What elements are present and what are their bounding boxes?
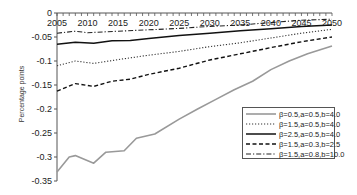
legend-item: β=1.5,a=0.5,b=4.0 <box>246 119 332 129</box>
x-tick-label: 2010 <box>78 18 98 28</box>
y-tick-label: 0 <box>47 8 52 18</box>
legend: β=0.5,a=0.5,b=4.0β=1.5,a=0.5,b=4.0β=2.5,… <box>242 107 335 159</box>
series-line-4 <box>57 37 332 91</box>
legend-item: β=0.5,a=0.5,b=4.0 <box>246 109 332 119</box>
legend-label: β=2.5,a=0.5,b=4.0 <box>279 130 340 139</box>
legend-swatch-icon <box>246 150 276 158</box>
legend-swatch-icon <box>246 130 276 138</box>
x-tick-label: 2020 <box>139 18 159 28</box>
legend-label: β=0.5,a=0.5,b=4.0 <box>279 110 340 119</box>
legend-item: β=1.5,a=0.3,b=2.5 <box>246 139 332 149</box>
legend-swatch-icon <box>246 110 276 118</box>
y-tick-label: -0.15 <box>31 80 52 90</box>
x-tick-label: 2025 <box>169 18 189 28</box>
legend-label: β=1.5,a=0.3,b=2.5 <box>279 140 340 149</box>
y-tick-label: -0.05 <box>31 32 52 42</box>
x-tick-label: 2015 <box>108 18 128 28</box>
x-axis: 2005201020152020202520302035204020452050 <box>47 13 342 28</box>
legend-label: β=1.5,a=0.8,b=10.0 <box>279 150 344 159</box>
legend-label: β=1.5,a=0.5,b=4.0 <box>279 120 340 129</box>
legend-swatch-icon <box>246 140 276 148</box>
legend-item: β=1.5,a=0.8,b=10.0 <box>246 149 332 159</box>
y-tick-label: -0.25 <box>31 128 52 138</box>
series-line-3 <box>57 25 332 44</box>
y-tick-label: -0.2 <box>36 104 52 114</box>
legend-swatch-icon <box>246 120 276 128</box>
line-chart: 0-0.05-0.1-0.15-0.2-0.25-0.3-0.35 200520… <box>0 0 357 195</box>
legend-item: β=2.5,a=0.5,b=4.0 <box>246 129 332 139</box>
y-tick-label: -0.1 <box>36 56 52 66</box>
y-axis-label: Percentage points <box>18 65 26 122</box>
x-tick-label: 2005 <box>47 18 67 28</box>
y-axis: 0-0.05-0.1-0.15-0.2-0.25-0.3-0.35 <box>31 8 57 186</box>
x-tick-label: 2035 <box>230 18 250 28</box>
y-tick-label: -0.3 <box>36 152 52 162</box>
y-tick-label: -0.35 <box>31 176 52 186</box>
